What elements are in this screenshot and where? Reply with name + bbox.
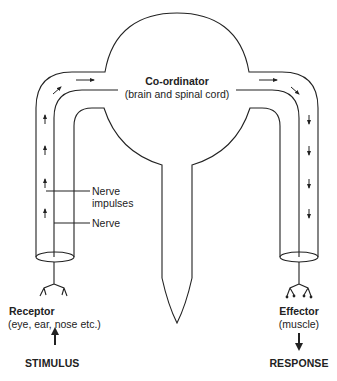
nerve-impulses-label: Nerve impulses — [92, 185, 133, 209]
receptor-tube-end — [36, 252, 74, 262]
spinal-cord-outline — [74, 108, 280, 323]
effector-title: Effector — [264, 305, 334, 317]
brain-outline — [36, 13, 318, 257]
receptor-endings — [40, 262, 67, 296]
effector-subtitle: (muscle) — [264, 318, 334, 330]
receptor-title: Receptor — [9, 305, 55, 317]
impulse-arrows — [45, 80, 309, 218]
stimulus-label: STIMULUS — [25, 357, 79, 369]
motor-nerve — [236, 90, 299, 257]
coordinator-subtitle: (brain and spinal cord) — [112, 88, 242, 100]
sensory-nerve — [54, 90, 118, 257]
nerve-label: Nerve — [92, 217, 120, 229]
effector-endings — [287, 262, 311, 296]
response-label: RESPONSE — [259, 357, 337, 369]
coordinator-title: Co-ordinator — [117, 75, 237, 87]
receptor-subtitle: (eye, ear, nose etc.) — [8, 318, 101, 330]
